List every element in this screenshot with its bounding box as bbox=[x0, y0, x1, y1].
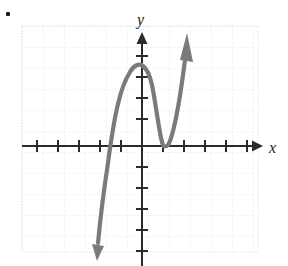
y-axis-label: y bbox=[135, 11, 145, 29]
x-axis-label: x bbox=[268, 139, 276, 156]
coordinate-plane-svg: y x bbox=[0, 0, 288, 266]
bullet-point-marker bbox=[6, 12, 10, 16]
graph-figure: y x bbox=[0, 0, 288, 266]
grid-lines bbox=[22, 26, 258, 252]
